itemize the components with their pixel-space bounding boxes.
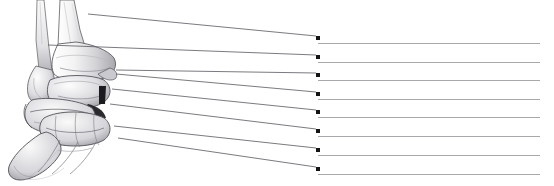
leader-line-6 bbox=[110, 104, 316, 129]
answer-blank-line-3[interactable] bbox=[318, 80, 540, 81]
answer-blank-line-2[interactable] bbox=[318, 62, 540, 63]
answer-bullet-4 bbox=[316, 92, 320, 96]
answer-bullet-1 bbox=[316, 36, 320, 40]
leader-line-5 bbox=[112, 89, 316, 110]
leader-line-1 bbox=[88, 14, 316, 36]
answer-blank-line-7[interactable] bbox=[318, 155, 540, 156]
answer-blank-line-1[interactable] bbox=[318, 43, 540, 44]
answer-blank-line-4[interactable] bbox=[318, 99, 540, 100]
anatomy-labeling-worksheet bbox=[0, 0, 554, 186]
answer-bullet-5 bbox=[316, 110, 320, 114]
leader-line-3 bbox=[116, 70, 316, 73]
leader-line-2 bbox=[48, 45, 316, 55]
answer-bullet-7 bbox=[316, 148, 320, 152]
leader-line-layer bbox=[0, 0, 554, 186]
answer-bullet-2 bbox=[316, 55, 320, 59]
answer-bullet-6 bbox=[316, 129, 320, 133]
answer-bullet-8 bbox=[316, 167, 320, 171]
leader-line-4 bbox=[116, 74, 316, 92]
leader-line-8 bbox=[118, 138, 316, 167]
answer-bullet-3 bbox=[316, 73, 320, 77]
answer-blank-line-6[interactable] bbox=[318, 136, 540, 137]
answer-blank-line-5[interactable] bbox=[318, 117, 540, 118]
answer-blank-line-8[interactable] bbox=[318, 174, 540, 175]
leader-line-7 bbox=[114, 126, 316, 148]
